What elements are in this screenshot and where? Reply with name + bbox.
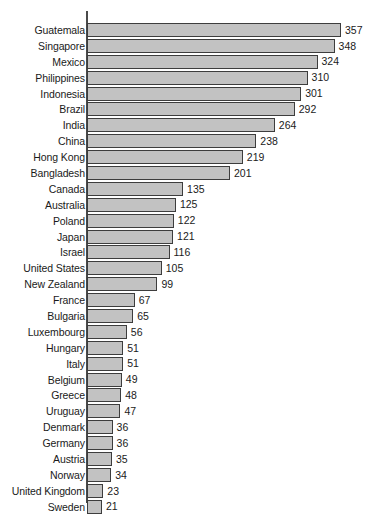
bar-value-label: 48 xyxy=(125,390,137,401)
bar-row: Uruguay47 xyxy=(0,403,381,419)
bar-and-value: 47 xyxy=(87,403,136,419)
category-label: Philippines xyxy=(35,72,85,84)
bar-and-value: 23 xyxy=(87,483,119,499)
bar-and-value: 36 xyxy=(87,435,128,451)
bar xyxy=(87,341,123,355)
bar-and-value: 238 xyxy=(87,133,278,149)
bar-and-value: 324 xyxy=(87,54,339,70)
bar-and-value: 301 xyxy=(87,86,323,102)
bar-value-label: 21 xyxy=(106,501,118,512)
bar-and-value: 56 xyxy=(87,324,143,340)
bar-and-value: 310 xyxy=(87,70,329,86)
bar-and-value: 51 xyxy=(87,340,139,356)
bar-value-label: 121 xyxy=(177,231,195,242)
bar-value-label: 310 xyxy=(312,72,330,83)
bar-and-value: 357 xyxy=(87,22,363,38)
bar xyxy=(87,484,103,498)
bar-value-label: 51 xyxy=(127,343,139,354)
bar-and-value: 348 xyxy=(87,38,356,54)
bar xyxy=(87,388,121,402)
bar-value-label: 219 xyxy=(247,152,265,163)
bar-value-label: 105 xyxy=(166,263,184,274)
bar-row: France67 xyxy=(0,292,381,308)
bar-and-value: 35 xyxy=(87,451,128,467)
bar xyxy=(87,230,173,244)
bar-and-value: 51 xyxy=(87,356,139,372)
bar xyxy=(87,436,113,450)
bar-and-value: 122 xyxy=(87,213,195,229)
bar-row: Austria35 xyxy=(0,451,381,467)
bar-value-label: 116 xyxy=(174,247,191,258)
bar-value-label: 201 xyxy=(234,168,252,179)
bar xyxy=(87,166,230,180)
category-label: Greece xyxy=(51,389,85,401)
bar-row: India264 xyxy=(0,117,381,133)
bar-and-value: 135 xyxy=(87,181,205,197)
bar-row: Canada135 xyxy=(0,181,381,197)
bar-row: Bulgaria65 xyxy=(0,308,381,324)
bar-row: Bangladesh201 xyxy=(0,165,381,181)
category-label: France xyxy=(53,294,85,306)
category-label: Hong Kong xyxy=(33,151,85,163)
bar-value-label: 264 xyxy=(279,120,297,131)
bar xyxy=(87,23,341,37)
bar-rows-container: Guatemala357Singapore348Mexico324Philipp… xyxy=(0,22,381,515)
category-label: Austria xyxy=(53,453,85,465)
bar-value-label: 292 xyxy=(299,104,317,115)
bar-and-value: 121 xyxy=(87,229,195,245)
bar-row: Singapore348 xyxy=(0,38,381,54)
bar-value-label: 67 xyxy=(139,295,151,306)
bar-row: Germany36 xyxy=(0,435,381,451)
category-label: Canada xyxy=(49,183,85,195)
bar-and-value: 49 xyxy=(87,372,138,388)
bar xyxy=(87,357,123,371)
category-label: Australia xyxy=(45,199,85,211)
bar xyxy=(87,118,275,132)
bar xyxy=(87,134,256,148)
category-label: Luxembourg xyxy=(28,326,85,338)
bar-value-label: 348 xyxy=(339,41,357,52)
category-label: Israel xyxy=(60,246,85,258)
bar-row: Mexico324 xyxy=(0,54,381,70)
bar-row: Brazil292 xyxy=(0,101,381,117)
bar-row: Hungary51 xyxy=(0,340,381,356)
bar xyxy=(87,500,102,514)
bar-value-label: 36 xyxy=(117,422,129,433)
bar-value-label: 65 xyxy=(137,311,149,322)
bar-and-value: 65 xyxy=(87,308,149,324)
bar xyxy=(87,71,308,85)
category-label: Germany xyxy=(43,437,85,449)
bar xyxy=(87,245,170,259)
bar-value-label: 36 xyxy=(117,438,129,449)
bar xyxy=(87,102,295,116)
bar-row: Greece48 xyxy=(0,387,381,403)
bar-value-label: 122 xyxy=(178,215,196,226)
bar-value-label: 49 xyxy=(126,374,138,385)
category-label: Indonesia xyxy=(40,88,85,100)
category-label: Bangladesh xyxy=(31,167,85,179)
category-label: Norway xyxy=(50,469,85,481)
bar-row: Italy51 xyxy=(0,356,381,372)
bar-value-label: 34 xyxy=(115,470,127,481)
bar-row: Hong Kong219 xyxy=(0,149,381,165)
bar xyxy=(87,452,112,466)
category-label: India xyxy=(63,119,85,131)
category-label: Bulgaria xyxy=(47,310,85,322)
bar-row: China238 xyxy=(0,133,381,149)
category-label: China xyxy=(58,135,85,147)
bar-row: Luxembourg56 xyxy=(0,324,381,340)
bar-row: Belgium49 xyxy=(0,372,381,388)
bar-and-value: 125 xyxy=(87,197,197,213)
bar-value-label: 35 xyxy=(116,454,128,465)
category-label: Poland xyxy=(53,215,85,227)
bar-and-value: 21 xyxy=(87,499,118,515)
bar-row: Indonesia301 xyxy=(0,86,381,102)
bar xyxy=(87,87,301,101)
bar-row: Norway34 xyxy=(0,467,381,483)
bar-row: United States105 xyxy=(0,260,381,276)
bar xyxy=(87,309,133,323)
bar-row: Guatemala357 xyxy=(0,22,381,38)
bar xyxy=(87,420,113,434)
bar-row: Israel116 xyxy=(0,244,381,260)
bar-value-label: 56 xyxy=(131,327,143,338)
